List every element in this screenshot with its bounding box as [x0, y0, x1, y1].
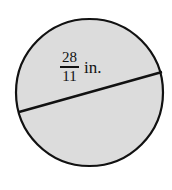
- circle-diagram-canvas: [0, 0, 172, 190]
- geometry-figure: 28 11 in.: [0, 0, 172, 190]
